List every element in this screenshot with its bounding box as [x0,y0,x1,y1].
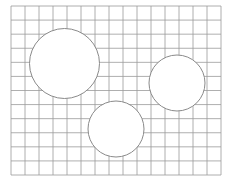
grid-diagram [0,0,228,183]
circle [149,55,205,111]
circle [30,29,100,99]
circle [88,101,144,157]
